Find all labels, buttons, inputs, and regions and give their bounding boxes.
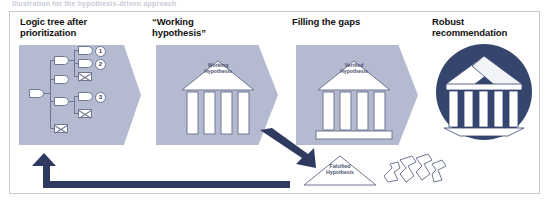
priority-badge-3: 3 bbox=[95, 92, 106, 103]
figure-caption: Illustration for the hypothesis-driven a… bbox=[12, 0, 312, 9]
tree-spine-level1 bbox=[50, 60, 51, 128]
tree-leaf-2[interactable] bbox=[78, 59, 93, 68]
priority-badge-2: 2 bbox=[95, 59, 106, 70]
tree-node-branch-3[interactable] bbox=[54, 97, 69, 106]
tree-node-branch-1[interactable] bbox=[54, 56, 69, 65]
tree-leaf-3[interactable] bbox=[78, 92, 93, 101]
verified-hypothesis-temple bbox=[296, 45, 418, 145]
tree-leaf-1[interactable] bbox=[78, 46, 93, 55]
collapsed-columns-icon bbox=[382, 150, 448, 190]
header-logic-tree: Logic tree after prioritization bbox=[20, 17, 140, 38]
arrow-feedback-loop bbox=[28, 153, 296, 188]
tree-node-branch-2[interactable] bbox=[54, 75, 69, 84]
verified-hypothesis-label: Verified Hypothesis bbox=[322, 62, 386, 74]
falsified-hypothesis-label: Falsified Hypothesis bbox=[308, 163, 372, 175]
tree-leaf-eliminated-2[interactable] bbox=[78, 109, 92, 118]
header-working-hypothesis: “Working hypothesis” bbox=[152, 17, 272, 38]
figure-root: Illustration for the hypothesis-driven a… bbox=[0, 0, 549, 202]
header-robust-recommendation: Robust recommendation bbox=[432, 17, 549, 38]
tree-leaf-eliminated-1[interactable] bbox=[78, 72, 92, 81]
robust-temple-3d bbox=[436, 44, 532, 140]
tree-node-root[interactable] bbox=[29, 89, 44, 98]
tree-spine-level2 bbox=[74, 96, 75, 114]
header-filling-the-gaps: Filling the gaps bbox=[292, 17, 412, 28]
tree-node-branch-eliminated[interactable] bbox=[54, 124, 68, 133]
working-hypothesis-label: Working Hypothesis bbox=[186, 62, 250, 74]
priority-badge-1: 1 bbox=[95, 46, 106, 57]
